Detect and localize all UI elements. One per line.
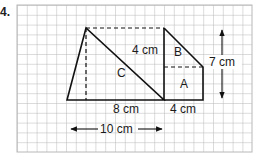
grid-paper xyxy=(17,5,252,152)
dim-8cm: 8 cm xyxy=(113,102,139,116)
dim-10cm: 10 cm xyxy=(100,122,133,136)
label-a: A xyxy=(180,77,188,91)
dim-7cm: 7 cm xyxy=(209,55,235,69)
label-b: B xyxy=(174,45,182,59)
dim-4cm-top: 4 cm xyxy=(132,43,158,57)
dim-4cm-bottom: 4 cm xyxy=(170,102,196,116)
figure: C B A 4 cm 7 cm 8 cm 4 cm 10 cm xyxy=(0,0,259,161)
label-c: C xyxy=(117,66,126,80)
